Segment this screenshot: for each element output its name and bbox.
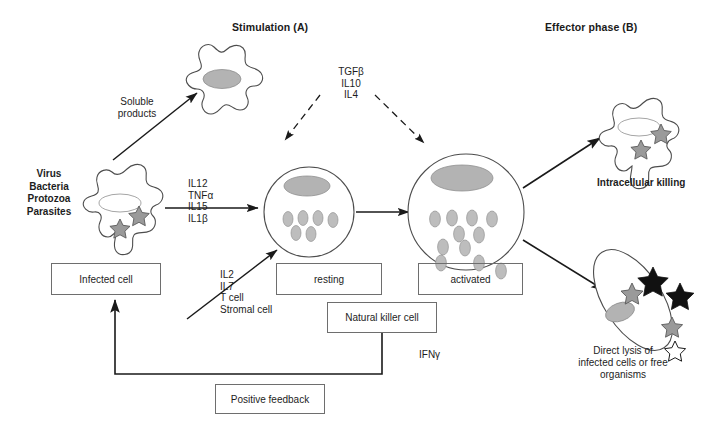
box-activated-label: activated <box>450 274 490 285</box>
inhibitory-cytokines-label: TGFβ IL10 IL4 <box>325 66 377 101</box>
stimulatory-cytokines-label: IL12 TNFα IL15 IL1β <box>188 178 213 224</box>
heading-stimulation: Stimulation (A) <box>232 21 308 33</box>
infected-macrophage-icon <box>83 164 163 254</box>
nucleus-icon <box>284 176 330 196</box>
star-pathogen-icon <box>666 283 694 310</box>
pathogen-list-label: Virus Bacteria Protozoa Parasites <box>6 168 92 218</box>
intracellular-killing-label: Intracellular killing <box>597 177 685 189</box>
box-positive-feedback-label: Positive feedback <box>231 394 309 405</box>
box-natural-killer-cell[interactable]: Natural killer cell <box>327 302 437 333</box>
nucleus-icon <box>431 165 493 191</box>
direct-lysis-label: Direct lysis of infected cells or free o… <box>548 345 698 381</box>
resting-nk-cell-icon <box>264 167 354 257</box>
box-positive-feedback[interactable]: Positive feedback <box>215 384 325 414</box>
inhibition-arrow-left <box>285 95 320 140</box>
macrophage-cell-icon <box>186 45 262 114</box>
box-resting-label: resting <box>314 274 344 285</box>
intracellular-killing-cell-icon <box>599 98 679 188</box>
box-infected-cell[interactable]: Infected cell <box>51 263 161 295</box>
activated-nk-cell-icon <box>408 154 524 279</box>
nucleus-icon <box>99 194 141 212</box>
ifn-gamma-label: IFNγ <box>419 349 440 361</box>
growth-factor-label: IL2 IL7 T cell Stromal cell <box>220 269 272 315</box>
intracellular-killing-arrow <box>523 138 600 188</box>
nucleus-icon <box>203 70 241 89</box>
diagram-canvas: Stimulation (A) Effector phase (B) Virus… <box>0 0 703 427</box>
box-natural-killer-cell-label: Natural killer cell <box>345 312 418 323</box>
inhibition-arrow-right <box>375 95 424 143</box>
direct-lysis-bold-text: Direct lysis <box>593 345 641 356</box>
heading-effector-phase: Effector phase (B) <box>545 21 637 33</box>
box-resting[interactable]: resting <box>276 263 382 295</box>
direct-lysis-arrow <box>523 240 604 290</box>
box-activated[interactable]: activated <box>418 263 523 295</box>
soluble-products-label: Soluble products <box>106 96 168 119</box>
box-infected-cell-label: Infected cell <box>79 274 132 285</box>
